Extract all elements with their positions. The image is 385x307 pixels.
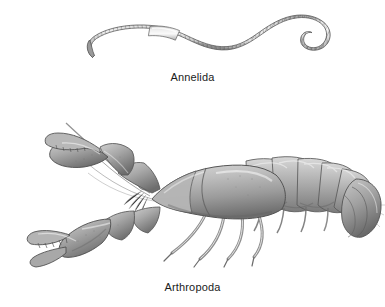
earthworm-illustration xyxy=(0,0,385,72)
caption-annelida: Annelida xyxy=(0,71,385,84)
crayfish-cheliped-upper xyxy=(45,133,160,193)
caption-arthropoda: Arthropoda xyxy=(0,281,385,294)
specimen-panel-arthropoda: Arthropoda xyxy=(0,95,385,307)
crayfish-tail-fan xyxy=(342,179,385,237)
earthworm-clitellum xyxy=(148,26,179,40)
earthworm-segments xyxy=(77,0,358,72)
specimen-panel-annelida: Annelida xyxy=(0,0,385,95)
crayfish-carapace xyxy=(152,165,285,219)
crayfish-illustration xyxy=(0,95,385,275)
earthworm-anterior-tip xyxy=(87,40,94,58)
crayfish-cheliped-lower xyxy=(27,207,160,267)
crayfish-walking-legs xyxy=(164,213,262,267)
illustration-plate: Annelida xyxy=(0,0,385,307)
earthworm-body xyxy=(77,0,358,72)
